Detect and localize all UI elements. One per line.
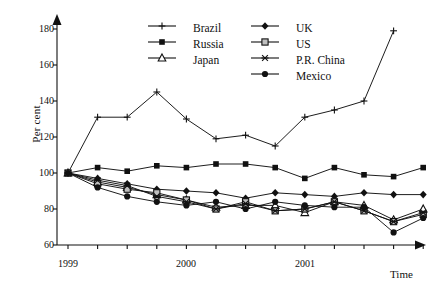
chart-figure: Per cent 180 160 140 120 100 80 60 1999 … — [0, 0, 433, 294]
chart-canvas — [0, 0, 433, 294]
